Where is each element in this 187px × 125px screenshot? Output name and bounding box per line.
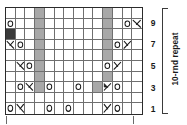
chart-cell [113, 72, 123, 83]
chart-cell [93, 72, 103, 83]
tick-mark-right [133, 116, 134, 124]
chart-cell [132, 29, 142, 40]
chart-cell [93, 61, 103, 72]
chart-cell-ssk [103, 103, 113, 114]
chart-cell [25, 29, 35, 40]
chart-cell [123, 103, 133, 114]
chart-cell [45, 29, 55, 40]
chart-cell-yo [45, 82, 55, 93]
chart-cell [45, 61, 55, 72]
chart-cell [64, 82, 74, 93]
chart-cell-k2tog [25, 82, 35, 93]
chart-cell [74, 72, 84, 83]
chart-cell [84, 103, 94, 114]
repeat-label: 10-rnd repeat [167, 5, 185, 113]
chart-cell [16, 93, 26, 104]
chart-cell [25, 40, 35, 51]
chart-cell [93, 29, 103, 40]
chart-cell [25, 72, 35, 83]
chart-cell [16, 8, 26, 19]
chart-cell-no-stitch [35, 29, 45, 40]
chart-cell-no-stitch [103, 19, 113, 30]
chart-cell [55, 50, 65, 61]
chart-cell-no-stitch [103, 29, 113, 40]
chart-cell-solid [6, 29, 16, 40]
chart-cell [45, 8, 55, 19]
chart-cell [16, 72, 26, 83]
chart-cell [25, 8, 35, 19]
chart-cell [25, 93, 35, 104]
chart-cell [45, 93, 55, 104]
chart-cell [64, 19, 74, 30]
chart-cell [16, 19, 26, 30]
chart-cell [113, 8, 123, 19]
chart-cell-yo [16, 82, 26, 93]
chart-cell [25, 103, 35, 114]
chart-cell [93, 50, 103, 61]
chart-cell-ssk [113, 61, 123, 72]
chart-cell [93, 40, 103, 51]
chart-cell-yo [123, 19, 133, 30]
chart-cell [132, 82, 142, 93]
chart-cell [74, 8, 84, 19]
chart-cell-no-stitch [93, 82, 103, 93]
chart-cell [93, 93, 103, 104]
chart-cell-yo [74, 82, 84, 93]
chart-cell [35, 103, 45, 114]
chart-cell [64, 61, 74, 72]
knitting-chart: 13579 10-rnd repeat [0, 0, 187, 125]
chart-cell [6, 93, 16, 104]
row-number-1: 1 [146, 104, 160, 115]
chart-cell-yo [6, 19, 16, 30]
chart-cell [93, 8, 103, 19]
chart-cell [16, 50, 26, 61]
chart-cell [123, 72, 133, 83]
chart-cell [55, 19, 65, 30]
chart-cell-k2tog [16, 61, 26, 72]
chart-cell-ssk [123, 40, 133, 51]
chart-cell [74, 40, 84, 51]
chart-cell [132, 50, 142, 61]
chart-cell [132, 8, 142, 19]
chart-cell [84, 8, 94, 19]
chart-cell [123, 93, 133, 104]
chart-cell [84, 50, 94, 61]
chart-cell-no-stitch [103, 40, 113, 51]
chart-cell [113, 93, 123, 104]
chart-cell [84, 93, 94, 104]
chart-cell-no-stitch [103, 50, 113, 61]
chart-cell [113, 19, 123, 30]
chart-cell-no-stitch [35, 50, 45, 61]
chart-cell-no-stitch [35, 19, 45, 30]
chart-cell [55, 82, 65, 93]
chart-cell-no-stitch [35, 61, 45, 72]
chart-cell [64, 72, 74, 83]
chart-cell [103, 93, 113, 104]
chart-cell [45, 40, 55, 51]
chart-cell-yo [25, 61, 35, 72]
chart-cell-no-stitch [35, 82, 45, 93]
chart-cell [84, 29, 94, 40]
chart-cell-yo [103, 61, 113, 72]
chart-cell [132, 61, 142, 72]
chart-cell [64, 93, 74, 104]
chart-cell-no-stitch [103, 8, 113, 19]
chart-cell [93, 103, 103, 114]
tick-mark-left [6, 116, 7, 124]
chart-cell [132, 72, 142, 83]
row-number-9: 9 [146, 18, 160, 29]
chart-cell-k2tog [16, 103, 26, 114]
chart-cell [74, 103, 84, 114]
chart-cell-yo [113, 103, 123, 114]
chart-cell-k2tog [132, 19, 142, 30]
chart-cell-ssk [103, 82, 113, 93]
chart-cell [55, 40, 65, 51]
chart-cell [55, 29, 65, 40]
chart-cell [6, 8, 16, 19]
chart-cell [64, 29, 74, 40]
chart-cell [84, 40, 94, 51]
chart-cell [93, 19, 103, 30]
chart-cell [64, 50, 74, 61]
chart-cell [123, 8, 133, 19]
chart-cell-yo [113, 82, 123, 93]
